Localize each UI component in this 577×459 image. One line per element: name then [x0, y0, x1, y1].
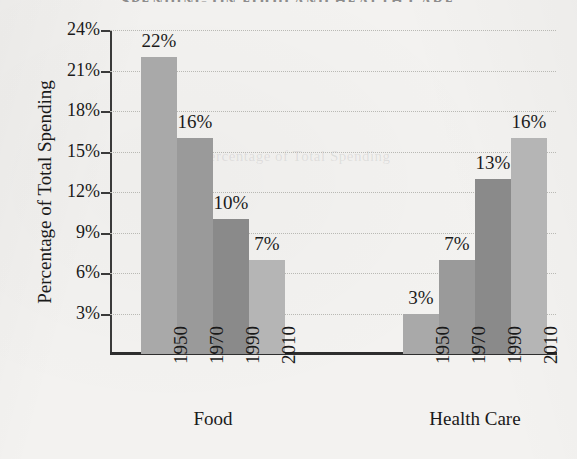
bar[interactable]: 16%: [511, 138, 547, 354]
y-axis-tick-label: 21%: [36, 60, 100, 81]
x-axis-category-label: 1970: [439, 362, 475, 448]
bar-value-label: 7%: [254, 233, 279, 255]
y-axis-tick-label: 12%: [36, 181, 100, 202]
x-axis-category-label: 1950: [403, 362, 439, 448]
gridline: [110, 30, 556, 31]
y-axis-tick-label: 24%: [36, 19, 100, 40]
bar-value-label: 16%: [512, 111, 547, 133]
bar-value-label: 10%: [214, 192, 249, 214]
y-axis-tick-label: 6%: [36, 262, 100, 283]
x-axis-category-text: 1950: [432, 326, 454, 364]
group-label: Food: [141, 408, 285, 430]
x-axis-category-text: 2010: [540, 326, 562, 364]
y-axis-tick: [101, 152, 110, 154]
group-label: Health Care: [403, 408, 547, 430]
x-axis-category-label: 1990: [213, 362, 249, 448]
plot-area: Percentage of Total Spending 24%21%18%15…: [110, 30, 556, 354]
x-axis-category-label: 2010: [511, 362, 547, 448]
x-axis-category-label: 2010: [249, 362, 285, 448]
bar-value-label: 3%: [408, 287, 433, 309]
x-axis-category-text: 1970: [206, 326, 228, 364]
x-axis-category-text: 1990: [504, 326, 526, 364]
bar-value-label: 7%: [444, 233, 469, 255]
x-axis-category-label: 1990: [475, 362, 511, 448]
y-axis-tick-label: 15%: [36, 141, 100, 162]
y-axis-tick: [101, 273, 110, 275]
x-axis-category-text: 2010: [278, 326, 300, 364]
bar[interactable]: 16%: [177, 138, 213, 354]
x-axis-category-text: 1970: [468, 326, 490, 364]
bar-value-label: 13%: [476, 152, 511, 174]
y-axis-tick: [101, 30, 110, 32]
y-axis-tick: [101, 111, 110, 113]
y-axis-tick-label: 9%: [36, 222, 100, 243]
x-axis-category-label: 1950: [141, 362, 177, 448]
y-axis-tick-label: 18%: [36, 100, 100, 121]
x-axis-category-text: 1990: [242, 326, 264, 364]
bar-value-label: 22%: [142, 30, 177, 52]
y-axis-tick: [101, 192, 110, 194]
y-axis-tick: [101, 71, 110, 73]
bar-value-label: 16%: [178, 111, 213, 133]
y-axis-tick-label: 3%: [36, 303, 100, 324]
y-axis-tick: [101, 233, 110, 235]
chart-title: SPENDING ON FOOD AND HEALTH CARE: [0, 0, 577, 2]
y-axis-tick: [101, 314, 110, 316]
x-axis-category-label: 1970: [177, 362, 213, 448]
bar[interactable]: 22%: [141, 57, 177, 354]
x-axis-category-text: 1950: [170, 326, 192, 364]
